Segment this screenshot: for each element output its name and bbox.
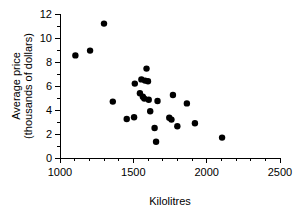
y-axis-tick-labels: 024681012 [40,8,52,164]
data-point [147,108,153,114]
x-tick-label: 1500 [121,166,145,178]
y-tick-label: 0 [46,152,52,164]
y-axis-title-line2: (thousands of dollars) [22,33,34,139]
axis-lines [60,14,280,158]
data-point [153,139,159,145]
data-point [154,98,160,104]
data-point [170,92,176,98]
y-tick-label: 10 [40,32,52,44]
y-axis-ticks [55,14,60,158]
data-point [174,123,180,129]
x-tick-label: 1000 [48,166,72,178]
data-point [101,20,107,26]
y-tick-label: 6 [46,80,52,92]
data-point [145,78,151,84]
data-point [131,114,137,120]
data-point [72,52,78,58]
y-tick-label: 8 [46,56,52,68]
y-tick-label: 12 [40,8,52,20]
data-point [184,100,190,106]
data-point [110,98,116,104]
x-tick-label: 2000 [194,166,218,178]
scatter-plot-figure: 0246810121000150020002500KilolitresAvera… [0,0,295,212]
data-point [132,80,138,86]
data-point [192,120,198,126]
data-point [168,116,174,122]
y-tick-label: 2 [46,128,52,140]
data-point [87,47,93,53]
x-axis-tick-labels: 1000150020002500 [48,166,292,178]
data-point [143,65,149,71]
data-point [151,125,157,131]
y-tick-label: 4 [46,104,52,116]
x-tick-label: 2500 [268,166,292,178]
axis-titles: KilolitresAverage price(thousands of dol… [10,33,191,207]
data-point [219,134,225,140]
data-point [146,97,152,103]
data-point [124,116,130,122]
x-axis-ticks [60,158,280,163]
chart-canvas: 0246810121000150020002500KilolitresAvera… [0,0,295,212]
data-points [72,20,225,145]
x-axis-title: Kilolitres [149,195,191,207]
y-axis-title-line1: Average price [10,52,22,120]
